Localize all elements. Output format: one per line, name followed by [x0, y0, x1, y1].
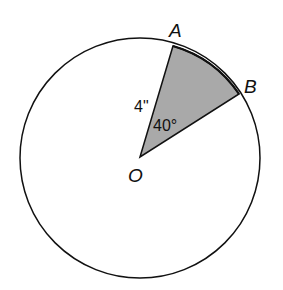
label-a: A — [168, 20, 182, 41]
circle — [20, 38, 260, 278]
label-b: B — [244, 76, 257, 97]
label-o: O — [128, 165, 143, 186]
shaded-sector — [140, 46, 239, 157]
radius-label: 4" — [134, 98, 149, 115]
circle-sector-diagram: A B O 4" 40° — [0, 0, 283, 290]
angle-label: 40° — [153, 117, 177, 134]
